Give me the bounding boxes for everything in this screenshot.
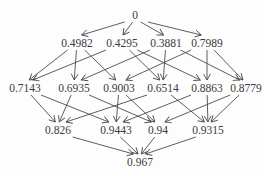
edge-root-b: [123, 22, 133, 35]
edge-b-bd: [137, 50, 200, 80]
edge-root-a: [82, 22, 125, 35]
edge-cd-bcd: [211, 95, 239, 122]
node-label-cd: 0.8779: [230, 82, 262, 94]
edge-root-d: [148, 22, 201, 35]
edge-b-bc: [129, 50, 159, 80]
edge-a-ab: [29, 50, 67, 80]
node-label-abc: 0.826: [45, 124, 71, 136]
edge-abc-abcd: [73, 137, 134, 154]
edge-ad-abd: [116, 95, 118, 122]
edge-cd-acd: [165, 95, 230, 122]
node-label-bd: 0.8863: [191, 82, 223, 94]
node-label-abcd: 0.967: [127, 156, 153, 168]
node-label-d: 0.7989: [191, 37, 223, 49]
nodes-layer: 00.49820.42950.38810.79890.71430.69350.9…: [9, 9, 262, 168]
edge-a-ad: [85, 50, 116, 80]
node-label-bc: 0.6514: [147, 82, 179, 94]
edge-bc-abc: [66, 95, 147, 122]
node-label-b: 0.4295: [106, 37, 138, 49]
edge-ad-acd: [126, 95, 155, 122]
node-label-ad: 0.9003: [103, 82, 135, 94]
node-label-bcd: 0.9315: [192, 124, 224, 136]
node-label-a: 0.4982: [61, 37, 93, 49]
edge-b-ab: [33, 50, 106, 80]
edge-c-bc: [163, 50, 165, 80]
lattice-diagram: 00.49820.42950.38810.79890.71430.69350.9…: [0, 0, 263, 177]
node-label-ac: 0.6935: [58, 82, 90, 94]
edge-root-c: [141, 22, 164, 35]
edge-bc-bcd: [171, 95, 204, 122]
edge-a-ac: [74, 50, 76, 80]
edge-c-cd: [180, 50, 239, 80]
edge-d-ad: [126, 50, 191, 80]
graph-svg: 00.49820.42950.38810.79890.71430.69350.9…: [0, 0, 263, 177]
edge-c-ac: [81, 50, 150, 80]
node-label-ab: 0.7143: [9, 82, 41, 94]
node-label-acd: 0.94: [148, 124, 168, 136]
node-label-root: 0: [132, 9, 138, 21]
edge-ac-abc: [59, 95, 71, 122]
edge-bd-bcd: [207, 95, 208, 122]
node-label-c: 0.3881: [150, 37, 182, 49]
node-label-abd: 0.9443: [100, 124, 132, 136]
edge-d-cd: [214, 50, 243, 80]
